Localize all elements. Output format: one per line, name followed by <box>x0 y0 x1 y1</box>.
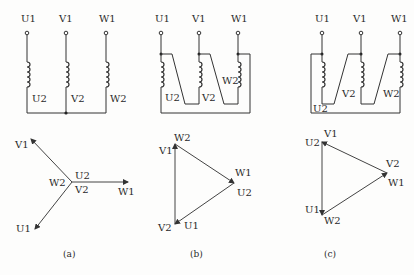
terminal-label-v1: V1 <box>191 13 206 24</box>
phasor-label-v1: V1 <box>14 139 29 150</box>
diagram-canvas: U1 V1 W1 U2 V2 W2 V1 U2 W2 V2 W1 U1 <box>0 0 414 275</box>
winding-connection-figure: U1 V1 W1 U2 V2 W2 V1 U2 W2 V2 W1 U1 <box>0 0 414 275</box>
terminal-label-w1: W1 <box>99 13 116 24</box>
terminal-label-w1: W1 <box>391 13 408 24</box>
coil-v-icon <box>361 62 364 87</box>
phasor-label-w1: W1 <box>388 177 405 188</box>
terminal-label-v1: V1 <box>58 13 73 24</box>
terminal-label-u1: U1 <box>315 13 330 24</box>
coil-w-icon <box>400 62 403 87</box>
phasor-label-w2: W2 <box>49 177 66 188</box>
coil-u-icon <box>27 62 30 87</box>
panel-a-circuit: U1 V1 W1 U2 V2 W2 <box>21 13 127 115</box>
terminal-label-v1: V1 <box>352 13 367 24</box>
winding-label-w2: W2 <box>383 88 400 99</box>
phasor-label-u2: U2 <box>305 137 320 148</box>
phasor-label-v1: V1 <box>323 128 338 139</box>
terminal-u1 <box>25 31 29 35</box>
phasor-label-u1: U1 <box>184 220 199 231</box>
coil-v-icon <box>199 62 202 87</box>
coil-v-icon <box>66 62 69 87</box>
winding-label-w2: W2 <box>222 75 239 86</box>
caption-c: (c) <box>324 249 336 259</box>
terminal-w1 <box>236 31 240 35</box>
terminal-u1 <box>320 31 324 35</box>
terminal-w1 <box>104 31 108 35</box>
phasor-label-w1: W1 <box>235 167 252 178</box>
winding-label-v2: V2 <box>201 92 216 103</box>
phasor-label-u2: U2 <box>75 170 90 181</box>
winding-label-w2: W2 <box>110 93 127 104</box>
coil-u-icon <box>322 62 325 87</box>
phasor-label-v2: V2 <box>74 184 89 195</box>
terminal-label-w1: W1 <box>231 13 248 24</box>
phasor-label-u1: U1 <box>305 204 320 215</box>
terminal-u1 <box>159 31 163 35</box>
winding-label-u2: U2 <box>165 92 180 103</box>
winding-label-u2: U2 <box>32 93 47 104</box>
winding-label-v2: V2 <box>341 88 356 99</box>
terminal-v1 <box>197 31 201 35</box>
coil-w-icon <box>106 62 109 87</box>
phasor-label-u1: U1 <box>16 223 31 234</box>
neutral-junction <box>64 111 67 114</box>
terminal-w1 <box>398 31 402 35</box>
terminal-v1 <box>64 31 68 35</box>
phasor-label-w1: W1 <box>118 186 135 197</box>
caption-a: (a) <box>63 249 75 259</box>
coil-u-icon <box>161 62 164 87</box>
terminal-label-u1: U1 <box>21 13 36 24</box>
winding-label-u2: U2 <box>313 103 328 114</box>
panel-c-circuit: U1 V1 W1 U2 V2 W2 <box>311 13 408 114</box>
caption-b: (b) <box>190 249 203 259</box>
phasor-label-u2: U2 <box>237 187 252 198</box>
panel-b-phasor: W2 V1 W1 U2 V2 U1 <box>157 132 252 233</box>
phasor-label-w2: W2 <box>324 215 341 226</box>
phasor-label-w2: W2 <box>174 132 191 143</box>
phasor-label-v2: V2 <box>157 222 172 233</box>
phasor-label-v2: V2 <box>385 158 400 169</box>
panel-b-circuit: U1 V1 W1 U2 V2 W2 <box>155 13 250 113</box>
winding-label-v2: V2 <box>70 93 85 104</box>
panel-a-phasor: V1 U2 W2 V2 W1 U1 <box>14 139 135 234</box>
terminal-v1 <box>359 31 363 35</box>
terminal-label-u1: U1 <box>155 13 170 24</box>
phasor-label-v1: V1 <box>158 145 173 156</box>
panel-c-phasor: V1 U2 V2 W1 U1 W2 <box>305 128 405 226</box>
